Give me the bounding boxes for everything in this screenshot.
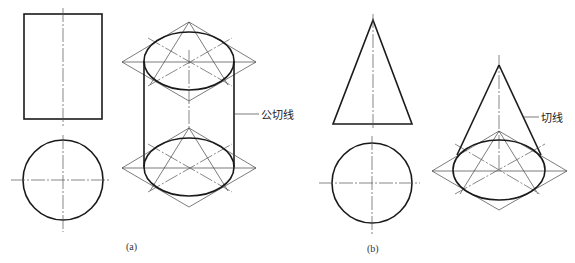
tangent-label: 切线 xyxy=(541,109,563,125)
common-tangent-label: 公切线 xyxy=(261,106,294,122)
cylinder-front-view xyxy=(24,8,102,126)
drawing-canvas xyxy=(0,0,575,263)
cylinder-top-view xyxy=(11,135,110,232)
caption-b: (b) xyxy=(367,243,379,254)
isometric-cylinder xyxy=(122,22,259,207)
isometric-cone xyxy=(432,55,567,210)
cone-top-view xyxy=(319,136,420,235)
cone-front-view xyxy=(333,14,412,130)
caption-a: (a) xyxy=(126,241,137,252)
